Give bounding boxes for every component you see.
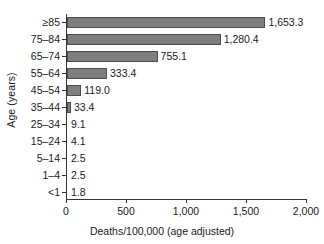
x-axis-tick — [186, 199, 187, 203]
plot-area: ≥851,653.375–841,280.465–74755.155–64333… — [66, 14, 306, 199]
y-axis-tick — [62, 22, 66, 23]
x-axis-tick — [66, 199, 67, 203]
y-axis-tick — [62, 124, 66, 125]
bar-value-label: 2.5 — [71, 150, 86, 167]
bar-value-label: 119.0 — [84, 82, 110, 99]
category-label: 55–64 — [31, 65, 60, 82]
y-axis-tick — [62, 39, 66, 40]
x-axis-tick — [126, 199, 127, 203]
x-axis-tick-label: 500 — [117, 205, 135, 217]
bar-row: 5–142.5 — [66, 150, 306, 167]
bar — [67, 17, 265, 28]
category-label: 35–44 — [31, 99, 60, 116]
category-label: <1 — [48, 184, 60, 201]
y-axis-tick — [62, 90, 66, 91]
bar — [67, 85, 81, 96]
category-label: 1–4 — [42, 167, 60, 184]
bar-row: 75–841,280.4 — [66, 31, 306, 48]
bar-value-label: 9.1 — [71, 116, 86, 133]
bar-value-label: 333.4 — [110, 65, 136, 82]
bar-row: 65–74755.1 — [66, 48, 306, 65]
y-axis-tick — [62, 107, 66, 108]
x-axis-tick-label: 2,000 — [293, 205, 319, 217]
y-axis-tick — [62, 73, 66, 74]
bar — [67, 34, 221, 45]
y-axis-tick — [62, 56, 66, 57]
bar-value-label: 1,280.4 — [224, 31, 259, 48]
category-label: 65–74 — [31, 48, 60, 65]
y-axis-tick — [62, 175, 66, 176]
bar-row: 55–64333.4 — [66, 65, 306, 82]
bar-value-label: 33.4 — [74, 99, 94, 116]
bar-value-label: 2.5 — [71, 167, 86, 184]
x-axis-tick — [246, 199, 247, 203]
bar-row: ≥851,653.3 — [66, 14, 306, 31]
x-axis-tick — [306, 199, 307, 203]
x-axis-title: Deaths/100,000 (age adjusted) — [0, 225, 324, 237]
category-label: 15–24 — [31, 133, 60, 150]
category-label: 45–54 — [31, 82, 60, 99]
bar-value-label: 1.8 — [71, 184, 86, 201]
x-axis-tick-label: 1,500 — [233, 205, 259, 217]
y-axis-tick — [62, 158, 66, 159]
bar-value-label: 4.1 — [71, 133, 86, 150]
category-label: ≥85 — [43, 14, 60, 31]
x-axis-tick-label: 0 — [63, 205, 69, 217]
category-label: 75–84 — [31, 31, 60, 48]
x-axis-tick-label: 1,000 — [173, 205, 199, 217]
category-label: 25–34 — [31, 116, 60, 133]
y-axis-title: Age (years) — [0, 0, 22, 200]
bar — [67, 68, 107, 79]
bar-row: 25–349.1 — [66, 116, 306, 133]
bar-row: 1–42.5 — [66, 167, 306, 184]
bar-row: 45–54119.0 — [66, 82, 306, 99]
bar-value-label: 1,653.3 — [268, 14, 303, 31]
y-axis-tick — [62, 141, 66, 142]
bar — [67, 51, 158, 62]
bar — [67, 102, 71, 113]
bar-row: 15–244.1 — [66, 133, 306, 150]
bar-chart: Age (years) ≥851,653.375–841,280.465–747… — [0, 0, 324, 244]
bar-row: 35–4433.4 — [66, 99, 306, 116]
bar-value-label: 755.1 — [161, 48, 187, 65]
category-label: 5–14 — [37, 150, 60, 167]
y-axis-tick — [62, 192, 66, 193]
y-axis-title-text: Age (years) — [5, 72, 17, 127]
